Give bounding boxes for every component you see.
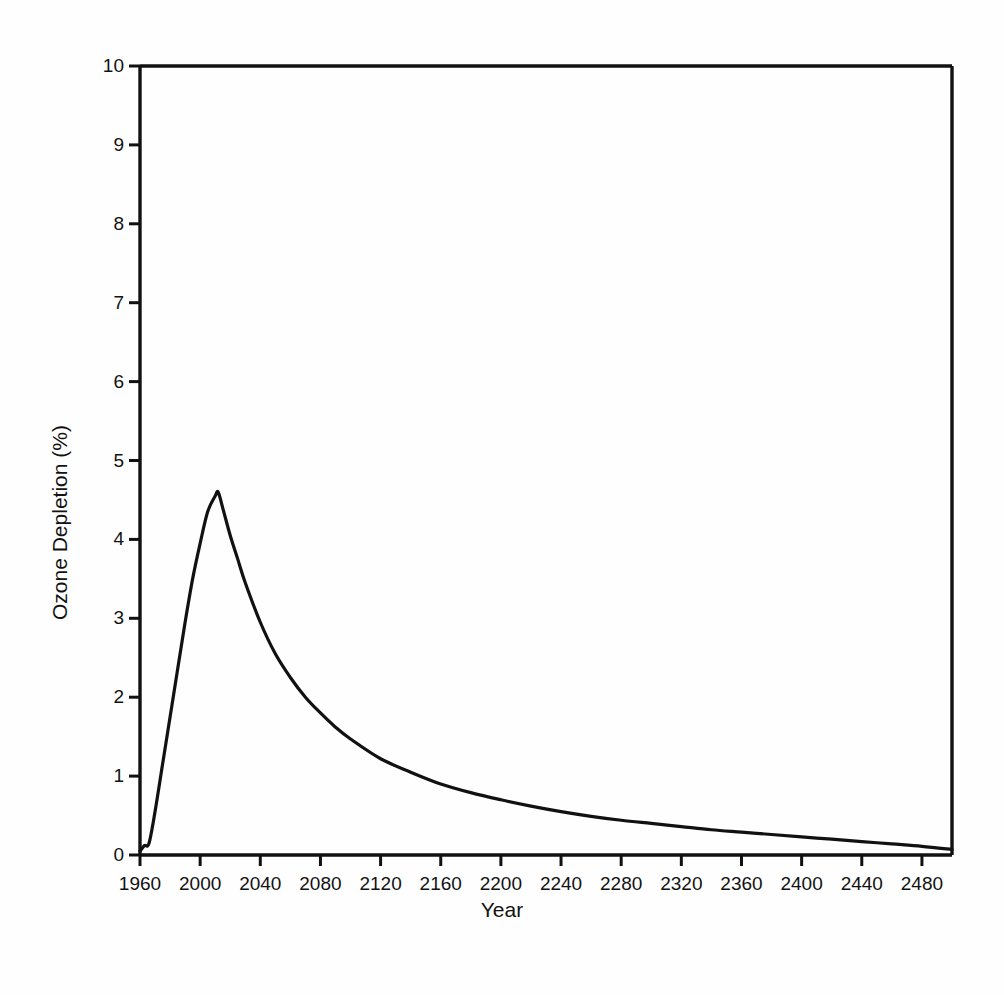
x-axis-title: Year [0, 898, 1004, 922]
y-tick-label: 0 [80, 844, 124, 866]
axis-frame [140, 66, 952, 855]
x-tick-label: 2080 [299, 873, 341, 895]
y-tick-label: 4 [80, 528, 124, 550]
x-tick-label: 2480 [901, 873, 943, 895]
y-tick-label: 5 [80, 450, 124, 472]
y-tick-label: 9 [80, 134, 124, 156]
x-tick-label: 2120 [359, 873, 401, 895]
y-tick-label: 8 [80, 213, 124, 235]
y-tick-label: 3 [80, 607, 124, 629]
x-tick-label: 2040 [239, 873, 281, 895]
x-tick-label: 2320 [660, 873, 702, 895]
x-tick-label: 2160 [420, 873, 462, 895]
x-tick-label: 2000 [179, 873, 221, 895]
x-tick-label: 2440 [841, 873, 883, 895]
ozone-depletion-line-chart [0, 0, 1004, 995]
x-tick-label: 2280 [600, 873, 642, 895]
y-tick-label: 1 [80, 765, 124, 787]
x-tick-label: 2240 [540, 873, 582, 895]
y-tick-label: 6 [80, 371, 124, 393]
y-tick-label: 10 [80, 55, 124, 77]
y-axis-title: Ozone Depletion (%) [48, 425, 72, 620]
x-tick-label: 2200 [480, 873, 522, 895]
data-series-ozone-depletion [140, 491, 952, 851]
y-tick-label: 2 [80, 686, 124, 708]
x-tick-label: 2400 [780, 873, 822, 895]
x-tick-label: 1960 [119, 873, 161, 895]
y-tick-label: 7 [80, 292, 124, 314]
chart-figure: 012345678910 196020002040208021202160220… [0, 0, 1004, 995]
x-tick-label: 2360 [720, 873, 762, 895]
